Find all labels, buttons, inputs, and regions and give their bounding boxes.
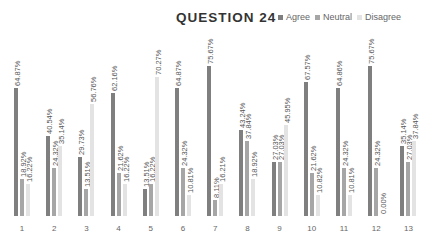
x-tick-label: 6 (173, 224, 193, 233)
bar-agree-9 (272, 162, 276, 216)
bar-disagree-8 (251, 179, 255, 216)
value-label: 24.32% (342, 140, 350, 165)
bar-disagree-5 (155, 77, 159, 216)
value-label: 16.22% (123, 156, 131, 181)
value-label: 56.76% (90, 76, 98, 101)
x-tick-label: 13 (398, 224, 418, 233)
bar-neutral-10 (310, 173, 314, 216)
value-label: 24.32% (181, 140, 189, 165)
bar-agree-6 (175, 88, 179, 216)
bar-disagree-9 (284, 125, 288, 216)
bar-disagree-13 (412, 141, 416, 216)
bar-neutral-13 (406, 162, 410, 216)
plot-area: 64.87%18.92%16.22%140.54%24.32%35.14%229… (0, 0, 432, 245)
x-tick-label: 10 (302, 224, 322, 233)
x-tick-label: 2 (44, 224, 64, 233)
value-label: 29.73% (78, 130, 86, 155)
x-tick-label: 3 (76, 224, 96, 233)
bar-neutral-7 (213, 200, 217, 216)
bar-neutral-8 (245, 141, 249, 216)
bar-agree-7 (207, 66, 211, 216)
value-label: 64.87% (14, 60, 22, 85)
value-label: 62.16% (111, 65, 119, 90)
bar-neutral-6 (181, 168, 185, 216)
bar-neutral-1 (20, 179, 24, 216)
bar-agree-10 (304, 82, 308, 216)
value-label: 10.81% (187, 167, 195, 192)
bar-disagree-11 (348, 195, 352, 216)
value-label: 10.82% (316, 167, 324, 192)
bar-agree-8 (239, 130, 243, 216)
bar-agree-11 (336, 88, 340, 216)
bar-disagree-6 (187, 195, 191, 216)
x-tick-label: 4 (109, 224, 129, 233)
value-label: 64.87% (175, 60, 183, 85)
bar-agree-4 (111, 93, 115, 216)
bar-agree-12 (368, 66, 372, 216)
bar-neutral-11 (342, 168, 346, 216)
bar-disagree-4 (123, 184, 127, 216)
value-label: 70.27% (155, 49, 163, 74)
bar-neutral-3 (84, 189, 88, 216)
value-label: 24.32% (374, 140, 382, 165)
bar-disagree-10 (316, 195, 320, 216)
x-tick-label: 1 (12, 224, 32, 233)
bar-disagree-1 (26, 184, 30, 216)
value-label: 64.86% (336, 60, 344, 85)
bar-agree-2 (46, 136, 50, 216)
x-tick-label: 5 (141, 224, 161, 233)
value-label: 16.22% (26, 156, 34, 181)
value-label: 75.67% (368, 39, 376, 64)
bar-neutral-4 (117, 173, 121, 216)
bar-agree-13 (400, 146, 404, 216)
value-label: 37.84% (412, 114, 420, 139)
value-label: 67.57% (304, 55, 312, 80)
value-label: 0.00% (380, 193, 388, 214)
bar-disagree-7 (219, 184, 223, 216)
bar-agree-5 (143, 189, 147, 216)
x-tick-label: 11 (334, 224, 354, 233)
bar-neutral-9 (278, 162, 282, 216)
x-tick-label: 8 (237, 224, 257, 233)
bar-disagree-2 (58, 146, 62, 216)
value-label: 16.21% (219, 156, 227, 181)
value-label: 45.95% (284, 98, 292, 123)
value-label: 35.14% (58, 119, 66, 144)
value-label: 37.84% (245, 114, 253, 139)
value-label: 40.54% (46, 108, 54, 133)
value-label: 10.81% (348, 167, 356, 192)
bar-disagree-3 (90, 104, 94, 216)
bar-neutral-2 (52, 168, 56, 216)
value-label: 75.67% (207, 39, 215, 64)
bar-agree-1 (14, 88, 18, 216)
x-tick-label: 9 (270, 224, 290, 233)
bar-neutral-12 (374, 168, 378, 216)
bar-neutral-5 (149, 184, 153, 216)
x-tick-label: 7 (205, 224, 225, 233)
value-label: 18.92% (251, 151, 259, 176)
x-tick-label: 12 (366, 224, 386, 233)
bar-agree-3 (78, 157, 82, 216)
